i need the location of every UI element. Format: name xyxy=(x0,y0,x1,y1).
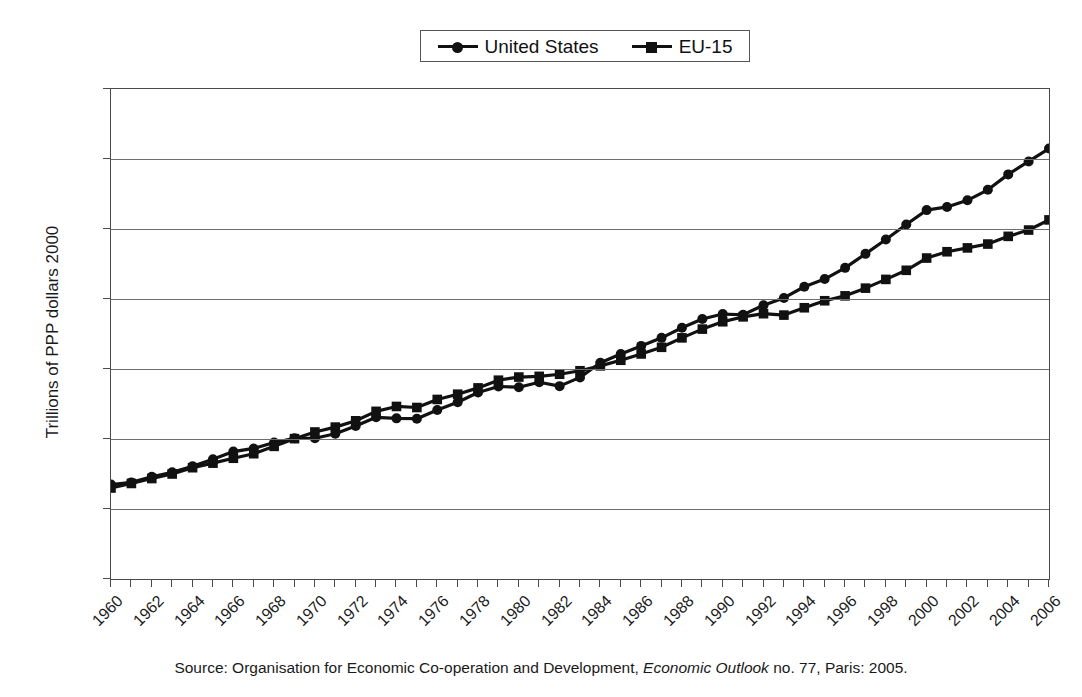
data-point-square xyxy=(575,366,585,376)
y-tick-mark xyxy=(103,298,110,299)
chart-figure: United States EU-15 Trillions of PPP dol… xyxy=(0,0,1082,697)
x-tick-label: 2002 xyxy=(934,592,983,641)
data-point-circle xyxy=(962,195,972,205)
data-point-square xyxy=(147,474,157,484)
data-point-square xyxy=(942,247,952,257)
chart-legend: United States EU-15 xyxy=(420,30,750,62)
x-tick-mark xyxy=(966,579,967,587)
x-tick-mark xyxy=(1048,579,1049,587)
data-point-square xyxy=(963,243,973,253)
x-tick-mark xyxy=(620,579,621,587)
data-point-circle xyxy=(901,219,911,229)
x-tick-mark xyxy=(314,579,315,587)
x-tick-mark xyxy=(559,579,560,587)
x-tick-mark xyxy=(599,579,600,587)
x-tick-mark xyxy=(416,579,417,587)
data-point-square xyxy=(249,449,259,459)
data-point-circle xyxy=(677,323,687,333)
caption-prefix: Source: Organisation for Economic Co-ope… xyxy=(174,659,643,676)
plot-area xyxy=(110,88,1050,580)
x-tick-label: 1970 xyxy=(281,592,330,641)
data-point-square xyxy=(371,407,381,417)
data-point-square xyxy=(111,483,116,493)
y-tick-mark xyxy=(103,438,110,439)
data-point-square xyxy=(636,349,646,359)
data-point-circle xyxy=(555,381,565,391)
caption-italic-title: Economic Outlook xyxy=(643,659,769,676)
series-united-states xyxy=(111,144,1049,490)
grid-line xyxy=(111,509,1049,510)
x-tick-mark xyxy=(375,579,376,587)
data-point-square xyxy=(229,453,239,463)
data-point-circle xyxy=(799,282,809,292)
x-tick-mark xyxy=(640,579,641,587)
x-tick-mark xyxy=(395,579,396,587)
x-tick-mark xyxy=(192,579,193,587)
data-point-circle xyxy=(412,414,422,424)
data-point-square xyxy=(1044,215,1049,225)
x-tick-label: 1984 xyxy=(567,592,616,641)
data-point-square xyxy=(351,416,361,426)
data-point-square xyxy=(127,479,137,489)
y-tick-mark xyxy=(103,228,110,229)
data-point-square xyxy=(657,343,667,353)
data-point-square xyxy=(1024,225,1034,235)
data-point-square xyxy=(983,239,993,249)
data-point-square xyxy=(453,389,463,399)
x-tick-mark xyxy=(926,579,927,587)
data-point-square xyxy=(432,395,442,405)
data-point-circle xyxy=(860,249,870,259)
x-tick-mark xyxy=(905,579,906,587)
data-point-square xyxy=(901,266,911,276)
x-tick-label: 1980 xyxy=(485,592,534,641)
data-point-square xyxy=(616,355,626,365)
x-tick-mark xyxy=(701,579,702,587)
legend-label-eu-15: EU-15 xyxy=(679,37,733,56)
x-tick-label: 1976 xyxy=(403,592,452,641)
data-point-circle xyxy=(942,202,952,212)
x-tick-mark xyxy=(681,579,682,587)
data-point-circle xyxy=(697,314,707,324)
source-caption: Source: Organisation for Economic Co-ope… xyxy=(0,659,1082,677)
data-point-square xyxy=(534,372,544,382)
data-point-circle xyxy=(881,235,891,245)
x-tick-label: 1988 xyxy=(648,592,697,641)
x-tick-label: 1996 xyxy=(811,592,860,641)
x-tick-mark xyxy=(722,579,723,587)
y-tick-mark xyxy=(103,158,110,159)
x-tick-label: 1972 xyxy=(322,592,371,641)
legend-label-united-states: United States xyxy=(485,37,599,56)
x-tick-label: 1998 xyxy=(852,592,901,641)
data-point-circle xyxy=(1024,156,1034,166)
data-point-square xyxy=(555,369,565,379)
data-point-square xyxy=(269,442,279,452)
x-tick-label: 2006 xyxy=(1015,592,1064,641)
data-point-square xyxy=(922,253,932,263)
data-point-circle xyxy=(759,300,769,310)
x-tick-mark xyxy=(987,579,988,587)
x-tick-mark xyxy=(477,579,478,587)
y-axis-title: Trillions of PPP dollars 2000 xyxy=(43,167,63,497)
x-tick-mark xyxy=(457,579,458,587)
legend-marker-circle-icon xyxy=(438,39,478,53)
data-point-circle xyxy=(432,405,442,415)
x-tick-mark xyxy=(355,579,356,587)
data-point-circle xyxy=(657,333,667,343)
legend-marker-square-icon xyxy=(632,39,672,53)
x-tick-mark xyxy=(1028,579,1029,587)
data-point-circle xyxy=(983,185,993,195)
x-tick-label: 1994 xyxy=(771,592,820,641)
data-point-circle xyxy=(779,293,789,303)
series-layer xyxy=(111,89,1049,579)
data-point-circle xyxy=(514,382,524,392)
data-point-square xyxy=(494,375,504,385)
x-tick-label: 1974 xyxy=(363,592,412,641)
data-point-square xyxy=(698,324,708,334)
x-tick-label: 1990 xyxy=(689,592,738,641)
data-point-square xyxy=(738,312,748,322)
x-tick-label: 1968 xyxy=(240,592,289,641)
x-tick-mark xyxy=(1007,579,1008,587)
data-point-square xyxy=(167,469,177,479)
data-point-square xyxy=(779,310,789,320)
x-tick-mark xyxy=(783,579,784,587)
